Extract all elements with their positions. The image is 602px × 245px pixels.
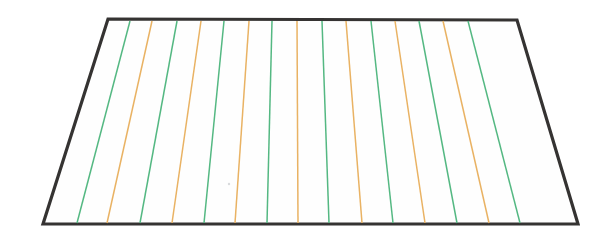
stray-mark	[228, 183, 230, 185]
trapezoid-outline	[43, 19, 578, 224]
strip-line-8-orange	[297, 21, 298, 223]
figure-root	[0, 0, 602, 245]
diagram-canvas	[0, 0, 602, 245]
